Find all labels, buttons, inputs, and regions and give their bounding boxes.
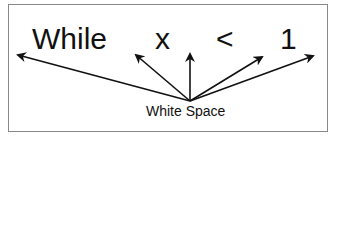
- white-space-label: White Space: [146, 103, 225, 119]
